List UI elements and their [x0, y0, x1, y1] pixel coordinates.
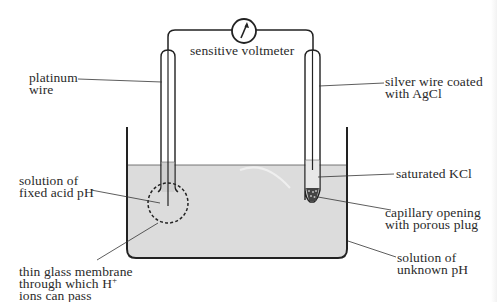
label-silver-wire: silver wire coated with AgCl	[385, 76, 483, 100]
label-fixed-acid-solution: solution of fixed acid pH	[19, 175, 94, 199]
page-edge-shadow	[491, 0, 497, 302]
label-unknown-ph-solution: solution of unknown pH	[397, 252, 468, 276]
label-sensitive-voltmeter: sensitive voltmeter	[190, 45, 294, 57]
label-saturated-kcl: saturated KCl	[396, 168, 472, 180]
superscript-plus: +	[112, 275, 117, 285]
label-line: fixed acid pH	[19, 187, 94, 199]
label-line: unknown pH	[397, 264, 468, 276]
reference-electrode	[305, 50, 320, 202]
label-line: with porous plug	[385, 219, 481, 231]
label-capillary-opening: capillary opening with porous plug	[385, 207, 481, 231]
label-line: wire	[29, 84, 78, 96]
label-glass-membrane: thin glass membrane through which H+ ion…	[19, 266, 133, 302]
label-line: ions can pass	[19, 290, 133, 302]
voltmeter	[232, 19, 256, 43]
label-line: with AgCl	[385, 88, 483, 100]
label-platinum-wire: platinum wire	[29, 72, 78, 96]
